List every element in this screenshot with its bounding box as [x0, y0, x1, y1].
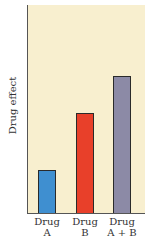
- x-label-line1: Drug: [32, 216, 62, 227]
- bar-drug-b: [76, 113, 94, 213]
- bar-drug-a: [38, 170, 56, 213]
- bar-drug-a-plus-b: [113, 76, 131, 213]
- x-label-line2: A: [32, 227, 62, 238]
- plot-area: [27, 5, 145, 214]
- x-label-line2: A + B: [107, 227, 137, 238]
- x-label-drug-b: Drug B: [70, 216, 100, 238]
- x-label-line2: B: [70, 227, 100, 238]
- x-label-drug-a-plus-b: Drug A + B: [107, 216, 137, 238]
- x-label-drug-a: Drug A: [32, 216, 62, 238]
- y-axis-label: Drug effect: [7, 66, 18, 146]
- x-label-line1: Drug: [70, 216, 100, 227]
- x-label-line1: Drug: [107, 216, 137, 227]
